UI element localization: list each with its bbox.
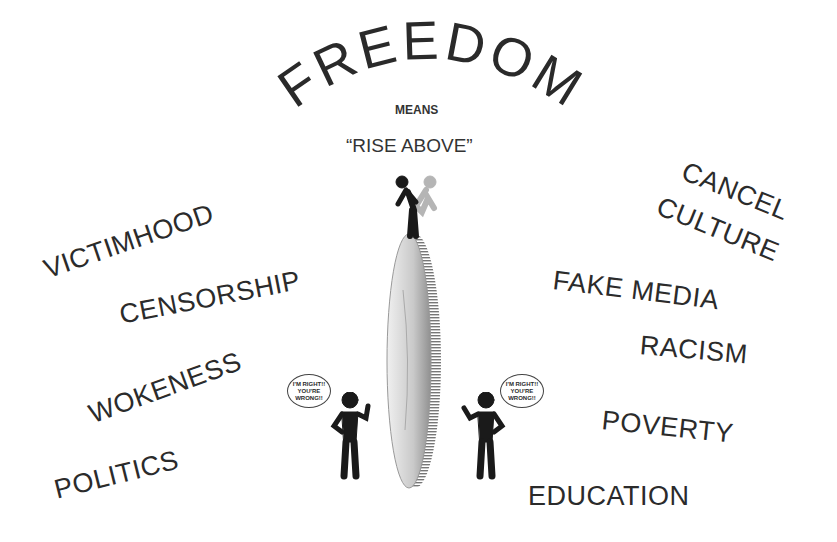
means-label: MEANS xyxy=(395,103,438,117)
coin-icon xyxy=(385,230,445,492)
word-fake-media: FAKE MEDIA xyxy=(551,265,721,316)
rise-above-subtitle: “RISE ABOVE” xyxy=(346,135,473,157)
word-politics: POLITICS xyxy=(51,445,182,506)
person-rising-icon xyxy=(388,172,448,242)
word-racism: RACISM xyxy=(639,330,749,370)
word-education: EDUCATION xyxy=(528,481,690,512)
word-victimhood: VICTIMHOOD xyxy=(40,198,218,285)
person-left-icon xyxy=(328,392,378,482)
word-censorship: CENSORSHIP xyxy=(117,265,303,330)
word-poverty: POVERTY xyxy=(600,405,735,450)
word-wokeness: WOKENESS xyxy=(85,346,246,430)
freedom-illustration: FREEDOM MEANS “RISE ABOVE” VICTIMHOOD CE… xyxy=(0,0,837,542)
speech-bubble-left: I'M RIGHT!! YOU'RE WRONG!! xyxy=(287,374,331,408)
person-right-icon xyxy=(460,392,510,482)
